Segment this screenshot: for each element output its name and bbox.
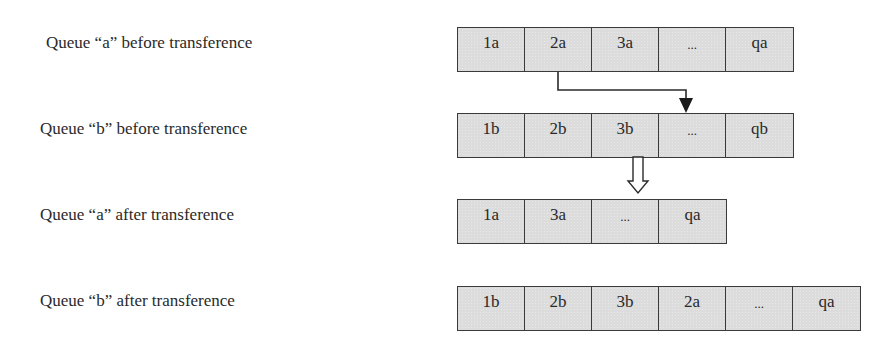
elbow-arrow-icon <box>558 72 693 113</box>
arrows-layer <box>0 0 896 338</box>
hollow-down-arrow-icon <box>628 157 648 193</box>
